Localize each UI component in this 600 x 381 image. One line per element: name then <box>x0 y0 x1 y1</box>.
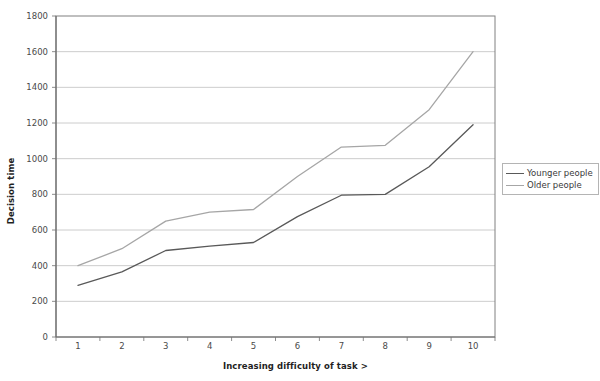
plot-border <box>56 16 495 337</box>
legend-swatch-younger-people <box>506 173 524 174</box>
series-line-younger-people <box>78 125 473 286</box>
legend-item-younger-people: Younger people <box>506 167 593 179</box>
legend-label-older-people: Older people <box>527 180 582 190</box>
legend-swatch-older-people <box>506 185 524 186</box>
legend-item-older-people: Older people <box>506 179 593 191</box>
plot-frame <box>56 16 495 337</box>
legend-label-younger-people: Younger people <box>527 168 593 178</box>
data-series <box>78 52 473 286</box>
chart-container: Decision time 02004006008001000120014001… <box>0 0 600 381</box>
chart-legend: Younger people Older people <box>502 163 599 195</box>
gridlines <box>56 52 495 302</box>
